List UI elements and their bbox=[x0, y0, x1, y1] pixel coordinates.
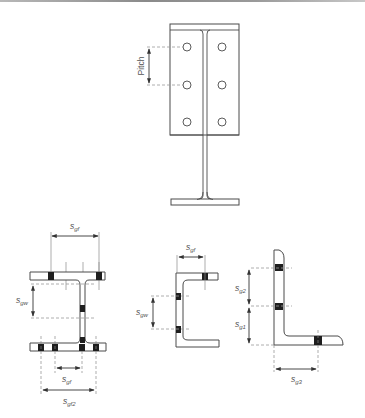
channel-section: sgf sgw bbox=[136, 242, 219, 347]
bolt bbox=[176, 326, 181, 333]
bolt bbox=[176, 293, 181, 300]
plate-connection-view: Pitch bbox=[136, 24, 239, 205]
bolt bbox=[48, 272, 54, 280]
bolt bbox=[96, 272, 102, 280]
sgf2-label: sgf2 bbox=[63, 396, 76, 407]
bolt-hole bbox=[183, 118, 191, 126]
diagram-canvas: Pitch sgf sgw bbox=[0, 0, 365, 418]
pitch-label: Pitch bbox=[136, 56, 146, 75]
sgf-top-label: sgf bbox=[70, 221, 81, 232]
bottom-flange bbox=[171, 199, 239, 205]
splice-plate bbox=[170, 24, 239, 135]
channel-outline bbox=[176, 273, 219, 347]
sgw-label: sgw bbox=[16, 295, 29, 306]
sgf-bottom-label: sgf bbox=[62, 374, 73, 385]
bolt-hole bbox=[183, 43, 191, 51]
channel-sgf-label: sgf bbox=[186, 242, 197, 253]
bolt bbox=[80, 337, 85, 343]
sg1-label: sg1 bbox=[235, 319, 246, 330]
bolt-hole bbox=[218, 43, 226, 51]
angle-outline bbox=[274, 250, 343, 345]
i-section: sgf sgw sgf sgf2 bbox=[16, 221, 106, 407]
sg2-label: sg2 bbox=[235, 283, 247, 294]
bolt bbox=[79, 344, 85, 351]
bolt bbox=[80, 305, 85, 312]
sg3-label: sg3 bbox=[291, 374, 303, 385]
bolt bbox=[275, 264, 283, 271]
bolt-hole bbox=[218, 118, 226, 126]
angle-section: sg2 sg1 sg3 bbox=[235, 250, 343, 385]
bolt-hole bbox=[218, 81, 226, 89]
bolt-hole bbox=[183, 81, 191, 89]
bolt bbox=[275, 303, 283, 310]
channel-sgw-label: sgw bbox=[136, 307, 149, 318]
